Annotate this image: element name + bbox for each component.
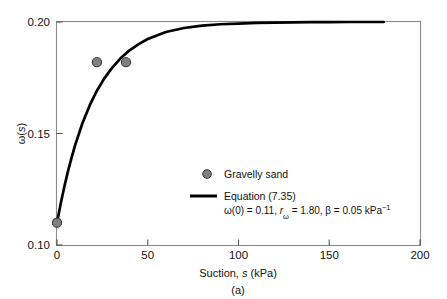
y-tick-label-2: 0.10	[28, 239, 50, 251]
chart-svg: 0.20 0.15 0.10 0 50 100 150 200 ω(s) Suc…	[0, 0, 447, 299]
x-axis-title-main: Suction,	[199, 267, 242, 279]
param-beta: β = 0.05 kPa	[325, 205, 382, 216]
figure-container: 0.20 0.15 0.10 0 50 100 150 200 ω(s) Suc…	[0, 0, 447, 299]
x-tick-label-2: 100	[229, 249, 248, 261]
y-axis-title-symbol: ω(	[15, 132, 27, 145]
x-tick-label-1: 50	[141, 249, 154, 261]
legend-label-gravelly-sand: Gravelly sand	[224, 168, 288, 180]
y-tick-label-0: 0.20	[28, 16, 50, 28]
legend: Gravelly sand Equation (7.35) ω(0) = 0.1…	[190, 168, 391, 221]
x-tick-label-0: 0	[54, 249, 60, 261]
param-beta-superscript: −1	[382, 203, 391, 212]
x-tick-label-3: 150	[320, 249, 339, 261]
scatter-points	[52, 58, 130, 228]
x-tick-label-4: 200	[410, 249, 429, 261]
legend-equation-params: ω(0) = 0.11, rω = 1.80, β = 0.05 kPa−1	[224, 203, 391, 221]
y-tick-label-1: 0.15	[28, 128, 50, 140]
param-omega0: ω(0) = 0.11,	[224, 205, 277, 216]
data-point	[52, 218, 61, 227]
x-axis-title: Suction, s (kPa)	[199, 267, 277, 279]
x-axis-title-unit: (kPa)	[247, 267, 276, 279]
legend-marker-icon	[203, 170, 212, 179]
figure-caption: (a)	[231, 284, 244, 296]
param-r-value: = 1.80,	[289, 205, 323, 216]
legend-label-equation: Equation (7.35)	[224, 190, 296, 202]
x-axis-ticks	[57, 240, 420, 246]
equation-curve	[57, 22, 384, 223]
data-point	[121, 58, 130, 67]
y-axis-title-close: )	[15, 123, 27, 127]
data-point	[92, 58, 101, 67]
y-axis-title: ω(s)	[15, 123, 27, 144]
svg-text:ω(s): ω(s)	[15, 123, 27, 144]
